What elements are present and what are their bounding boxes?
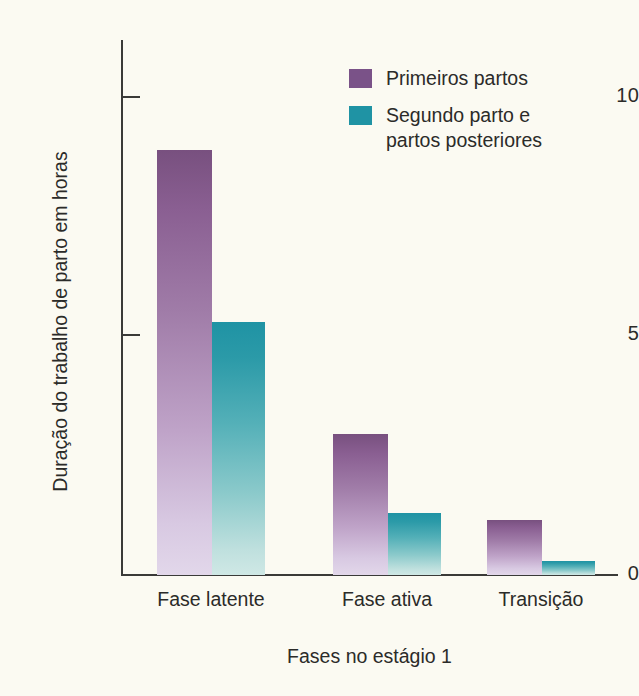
legend-label-series-a: Primeiros partos — [386, 66, 528, 91]
y-tick-mark-5 — [123, 334, 140, 336]
bar-3-series-b — [542, 561, 595, 575]
bar-2-series-b — [388, 513, 441, 575]
legend-item-segundo-parto: Segundo parto e partos posteriores — [349, 103, 542, 153]
y-tick-mark-10 — [123, 96, 140, 98]
bar-1-series-b — [212, 322, 265, 575]
chart-figure: 10 5 0 Duração do trabalho de parto em h… — [0, 0, 639, 696]
x-category-label-1: Fase latente — [131, 588, 291, 611]
y-axis-line — [121, 40, 123, 576]
bar-2-series-a — [333, 434, 388, 575]
bar-3-series-a — [487, 520, 542, 575]
x-axis-title: Fases no estágio 1 — [121, 645, 618, 668]
chart-legend: Primeiros partos Segundo parto e partos … — [349, 66, 542, 165]
legend-label-series-b: Segundo parto e partos posteriores — [386, 103, 542, 153]
x-category-label-2: Fase ativa — [307, 588, 467, 611]
bar-1-series-a — [157, 150, 212, 575]
legend-swatch-icon-series-a — [349, 69, 372, 88]
legend-item-primeiros-partos: Primeiros partos — [349, 66, 542, 91]
x-category-label-3: Transição — [461, 588, 621, 611]
y-tick-label-5: 5 — [581, 322, 639, 345]
y-tick-label-10: 10 — [581, 84, 639, 107]
y-axis-title: Duração do trabalho de parto em horas — [49, 87, 72, 557]
legend-swatch-icon-series-b — [349, 106, 372, 125]
